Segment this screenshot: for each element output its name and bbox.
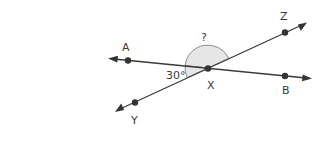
point-a-dot	[125, 57, 131, 63]
label-b: B	[282, 84, 290, 97]
unknown-angle-label: ?	[201, 31, 207, 44]
label-z: Z	[280, 10, 288, 23]
arrow-right-icon	[302, 75, 312, 82]
arrow-up-right-icon	[298, 23, 307, 31]
line-yz	[115, 23, 307, 113]
geometry-diagram: A B X Y Z ? 30°	[0, 0, 316, 158]
arrow-down-left-icon	[115, 104, 124, 112]
point-x-dot	[205, 65, 211, 71]
label-x: X	[207, 79, 215, 92]
known-angle-label: 30°	[166, 69, 186, 82]
point-z-dot	[282, 29, 288, 35]
point-b-dot	[282, 73, 288, 79]
arrow-left-icon	[108, 56, 118, 63]
label-y: Y	[130, 114, 138, 127]
point-y-dot	[132, 99, 138, 105]
label-a: A	[122, 41, 130, 54]
